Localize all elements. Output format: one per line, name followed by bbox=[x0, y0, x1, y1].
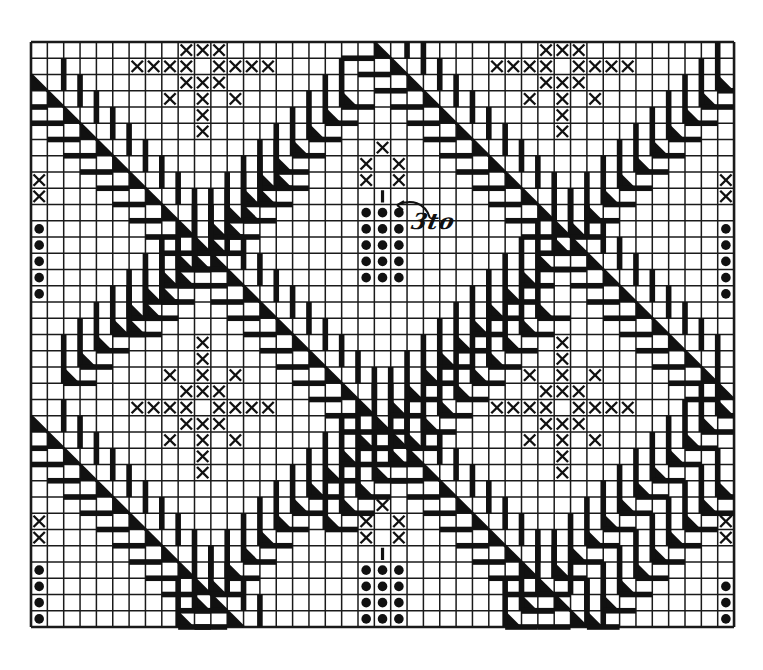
horizontal-bar bbox=[603, 315, 636, 321]
vertical-bar bbox=[519, 562, 525, 611]
vertical-bar bbox=[208, 546, 214, 595]
horizontal-bar bbox=[276, 169, 309, 175]
horizontal-bar bbox=[391, 462, 424, 468]
horizontal-bar bbox=[31, 120, 64, 126]
vertical-bar bbox=[323, 432, 329, 481]
vertical-bar bbox=[126, 465, 132, 498]
dot-icon bbox=[378, 240, 388, 250]
horizontal-bar bbox=[620, 592, 653, 598]
horizontal-bar bbox=[129, 332, 162, 338]
vertical-bar bbox=[600, 156, 606, 205]
vertical-bar bbox=[290, 286, 296, 319]
vertical-bar bbox=[241, 172, 247, 221]
dot-icon bbox=[378, 582, 388, 592]
dot-icon bbox=[378, 208, 388, 218]
vertical-bar bbox=[372, 383, 378, 432]
horizontal-bar bbox=[113, 202, 146, 208]
vertical-bar bbox=[486, 107, 492, 140]
horizontal-bar bbox=[505, 348, 538, 354]
vertical-bar bbox=[470, 286, 476, 335]
horizontal-bar bbox=[195, 608, 228, 614]
dot-icon bbox=[34, 240, 44, 250]
vertical-bar bbox=[355, 448, 361, 497]
horizontal-bar bbox=[685, 445, 718, 451]
vertical-bar bbox=[306, 91, 312, 140]
vertical-bar bbox=[273, 140, 279, 189]
dot-icon bbox=[378, 257, 388, 267]
horizontal-bar bbox=[47, 478, 80, 484]
vertical-bar bbox=[404, 351, 410, 400]
horizontal-bar bbox=[129, 218, 162, 224]
vertical-bar bbox=[617, 546, 623, 595]
vertical-bar bbox=[388, 367, 394, 416]
vertical-bar bbox=[470, 465, 476, 498]
horizontal-bar bbox=[538, 267, 571, 273]
horizontal-bar bbox=[620, 185, 653, 191]
vertical-bar bbox=[650, 432, 656, 481]
horizontal-bar bbox=[227, 315, 260, 321]
horizontal-bar bbox=[64, 494, 97, 500]
horizontal-bar bbox=[669, 380, 702, 386]
horizontal-bar bbox=[260, 348, 293, 354]
vertical-bar bbox=[339, 465, 345, 514]
horizontal-bar bbox=[669, 543, 702, 549]
vertical-bar bbox=[159, 253, 165, 302]
vertical-bar bbox=[61, 335, 67, 384]
horizontal-bar bbox=[423, 510, 456, 516]
vertical-bar bbox=[110, 448, 116, 481]
vertical-bar bbox=[453, 448, 459, 481]
horizontal-bar bbox=[342, 55, 375, 61]
dot-icon bbox=[721, 582, 731, 592]
vertical-bar bbox=[339, 416, 345, 465]
vertical-bar bbox=[502, 497, 508, 530]
vertical-bar bbox=[470, 335, 476, 384]
horizontal-bar bbox=[554, 250, 587, 256]
vertical-bar bbox=[551, 205, 557, 254]
horizontal-bar bbox=[472, 185, 505, 191]
horizontal-bar bbox=[636, 575, 669, 581]
horizontal-bar bbox=[211, 592, 244, 598]
horizontal-bar bbox=[358, 72, 391, 78]
vertical-bar bbox=[404, 400, 410, 449]
horizontal-bar bbox=[293, 510, 326, 516]
horizontal-bar bbox=[113, 543, 146, 549]
horizontal-bar bbox=[64, 380, 97, 386]
vertical-bar bbox=[257, 253, 263, 286]
vertical-bar bbox=[453, 75, 459, 108]
horizontal-bar bbox=[636, 494, 669, 500]
lace-chart-grid bbox=[0, 0, 763, 670]
vertical-bar bbox=[437, 367, 443, 416]
horizontal-bar bbox=[244, 218, 277, 224]
vertical-bar bbox=[682, 302, 688, 335]
vertical-bar bbox=[273, 481, 279, 530]
horizontal-bar bbox=[244, 332, 277, 338]
dot-icon bbox=[721, 614, 731, 624]
vertical-bar bbox=[617, 237, 623, 270]
vertical-bar bbox=[159, 497, 165, 530]
vertical-bar bbox=[715, 448, 721, 497]
horizontal-bar bbox=[407, 120, 440, 126]
horizontal-bar bbox=[211, 250, 244, 256]
horizontal-bar bbox=[538, 624, 571, 630]
vertical-bar bbox=[584, 497, 590, 546]
horizontal-bar bbox=[587, 218, 620, 224]
dot-icon bbox=[361, 614, 371, 624]
horizontal-bar bbox=[505, 624, 538, 630]
dot-icon bbox=[721, 257, 731, 267]
horizontal-bar bbox=[244, 559, 277, 565]
vertical-bar bbox=[502, 123, 508, 156]
vertical-bar bbox=[437, 318, 443, 367]
horizontal-bar bbox=[342, 510, 375, 516]
horizontal-bar bbox=[276, 364, 309, 370]
horizontal-bar bbox=[472, 559, 505, 565]
vertical-bar bbox=[682, 481, 688, 530]
horizontal-bar bbox=[701, 510, 734, 516]
horizontal-bar bbox=[685, 527, 718, 533]
annotation-label: 3to bbox=[409, 208, 458, 234]
horizontal-bar bbox=[489, 202, 522, 208]
horizontal-bar bbox=[423, 429, 456, 435]
vertical-bar bbox=[77, 75, 83, 108]
vertical-bar bbox=[535, 221, 541, 270]
dot-icon bbox=[378, 224, 388, 234]
vertical-bar bbox=[502, 253, 508, 302]
